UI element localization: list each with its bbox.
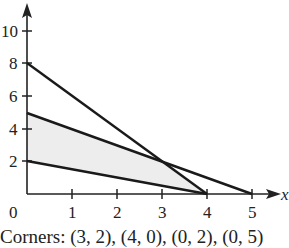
x-tick-label: 4 xyxy=(203,203,212,222)
x-tick-label: 2 xyxy=(113,203,122,222)
x-tick-label: 1 xyxy=(68,203,77,222)
x-tick-label: 3 xyxy=(158,203,167,222)
y-tick-label: 4 xyxy=(9,120,18,139)
origin-label: 0 xyxy=(9,203,18,222)
x-tick-label: 5 xyxy=(248,203,257,222)
y-tick-label: 10 xyxy=(1,22,18,41)
caption: Corners: (3, 2), (4, 0), (0, 2), (0, 5) xyxy=(0,226,263,248)
x-axis-label: x xyxy=(280,185,289,204)
y-tick-label: 2 xyxy=(9,152,18,171)
y-tick-label: 8 xyxy=(9,54,18,73)
y-tick-label: 6 xyxy=(9,87,18,106)
shaded-feasible-region xyxy=(27,113,207,194)
